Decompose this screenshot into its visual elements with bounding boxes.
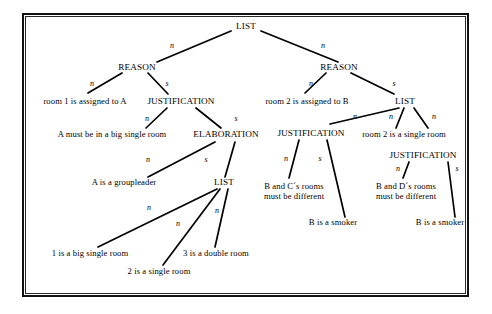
leaf-b-is-a-smoker-mid: B is a smoker: [309, 218, 357, 227]
leaf-b-and-c-rooms-line1: B and C´s rooms: [264, 181, 324, 191]
edge-label-reasonR-n: n: [309, 79, 313, 88]
leaf-a-groupleader: A is a groupleader: [92, 178, 157, 187]
edge-label-listR-n3: n: [432, 112, 436, 121]
leaf-a-must-big-single: A must be in a big single room: [58, 130, 167, 139]
edge-label-justFR-n: n: [396, 164, 400, 173]
node-justification-far-right: JUSTIFICATION: [389, 151, 456, 161]
edge-label-listB-n1: n: [147, 203, 151, 212]
edge-label-elab-n: n: [146, 155, 150, 164]
leaf-room2-assigned-b: room 2 is assigned to B: [265, 97, 348, 106]
edge-label-reasonL-s: s: [165, 79, 168, 88]
leaf-3-double-room: 3 is a double room: [183, 249, 249, 258]
edge-label-reasonR-s: s: [392, 79, 395, 88]
edge-label-listR-n1: n: [353, 112, 357, 121]
edge-label-listB-n3: n: [215, 206, 219, 215]
edge-label-justL-n: n: [145, 114, 149, 123]
edge-label-elab-s: s: [204, 155, 207, 164]
leaf-b-and-c-rooms: B and C´s rooms must be different: [264, 181, 324, 202]
edge-label-root-right: n: [321, 41, 325, 50]
leaf-b-and-d-rooms-line2: must be different: [376, 191, 436, 201]
edge-label-listR-n2: n: [389, 112, 393, 121]
node-elaboration: ELABORATION: [193, 130, 258, 140]
edge-label-listB-n2: n: [176, 219, 180, 228]
leaf-b-is-a-smoker-right: B is a smoker: [416, 218, 464, 227]
node-root-list: LIST: [236, 22, 256, 32]
edge-label-root-left: n: [170, 41, 174, 50]
leaf-b-and-d-rooms: B and D´s rooms must be different: [376, 181, 436, 202]
node-list-bottom: LIST: [214, 178, 234, 188]
leaf-1-big-single-room: 1 is a big single room: [52, 249, 128, 258]
node-reason-right: REASON: [320, 63, 357, 73]
diagram-canvas: LIST REASON REASON room 1 is assigned to…: [0, 0, 492, 314]
leaf-room2-single-room: room 2 is a single room: [362, 130, 446, 139]
leaf-b-and-d-rooms-line1: B and D´s rooms: [376, 181, 436, 191]
edge-label-justL-s: s: [234, 114, 237, 123]
node-justification-left: JUSTIFICATION: [147, 97, 214, 107]
edge-label-justM-s: s: [318, 154, 321, 163]
node-justification-mid: JUSTIFICATION: [277, 129, 344, 139]
leaf-b-and-c-rooms-line2: must be different: [264, 191, 324, 201]
leaf-room1-assigned-a: room 1 is assigned to A: [43, 97, 126, 106]
edge-label-justFR-s: s: [455, 164, 458, 173]
node-list-right: LIST: [395, 97, 415, 107]
edge-label-reasonL-n: n: [90, 79, 94, 88]
edge-label-justM-n: n: [284, 154, 288, 163]
leaf-2-single-room: 2 is a single room: [128, 267, 191, 276]
node-reason-left: REASON: [118, 63, 155, 73]
